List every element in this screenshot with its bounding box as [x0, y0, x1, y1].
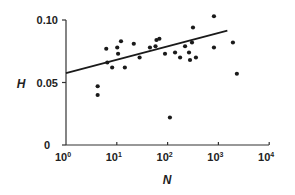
data-point: [178, 55, 182, 59]
data-point: [188, 58, 192, 62]
data-point: [163, 52, 167, 56]
x-tick-labels: 100101102103104: [55, 151, 274, 163]
data-point: [119, 39, 123, 43]
data-point: [212, 45, 216, 49]
scatter-chart: 0.10 0.05 0 H 100101102103104 N: [0, 0, 295, 195]
data-point: [110, 65, 114, 69]
data-point: [231, 40, 235, 44]
x-axis-title: N: [163, 173, 172, 187]
data-point: [173, 50, 177, 54]
data-point: [132, 42, 136, 46]
data-point: [137, 55, 141, 59]
data-point: [187, 50, 191, 54]
data-point: [96, 84, 100, 88]
data-point: [153, 44, 157, 48]
data-point: [235, 72, 239, 76]
data-point: [191, 25, 195, 29]
y-tick-label: 0: [44, 139, 50, 151]
y-tick-labels: 0.10 0.05 0 H: [17, 14, 58, 151]
x-tick-label: 103: [207, 151, 223, 163]
y-tick-label: 0.10: [37, 14, 58, 26]
data-point: [148, 45, 152, 49]
data-point: [115, 45, 119, 49]
x-tick-label: 101: [106, 151, 122, 163]
data-point: [105, 60, 109, 64]
data-point: [168, 115, 172, 119]
data-point: [104, 47, 108, 51]
x-tick-label: 100: [55, 151, 71, 163]
x-tick-label: 104: [258, 151, 274, 163]
regression-line: [66, 31, 227, 74]
axes: [62, 20, 269, 145]
data-point: [96, 93, 100, 97]
data-point: [116, 52, 120, 56]
data-points: [96, 14, 239, 119]
fit-line: [66, 31, 227, 74]
x-tick-label: 102: [157, 151, 173, 163]
y-axis-title: H: [17, 77, 26, 91]
data-point: [123, 65, 127, 69]
data-point: [212, 14, 216, 18]
data-point: [157, 37, 161, 41]
data-point: [190, 40, 194, 44]
y-tick-label: 0.05: [37, 77, 58, 89]
data-point: [194, 55, 198, 59]
data-point: [183, 44, 187, 48]
